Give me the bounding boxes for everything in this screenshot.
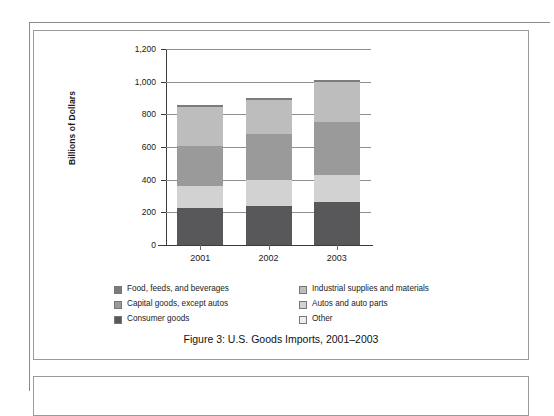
bar-segment	[246, 98, 292, 100]
figure-caption: Figure 3: U.S. Goods Imports, 2001–2003	[34, 333, 528, 345]
legend-label: Consumer goods	[127, 315, 189, 323]
y-tick-mark	[161, 147, 166, 148]
y-tick-mark	[161, 180, 166, 181]
x-tick-label: 2001	[175, 253, 225, 263]
y-tick-label: 800	[116, 109, 156, 119]
y-tick-mark	[161, 82, 166, 83]
y-tick-label: 200	[116, 207, 156, 217]
legend-column-right: Industrial supplies and materialsAutos a…	[299, 283, 429, 328]
legend-label: Capital goods, except autos	[127, 300, 228, 308]
plot-region: 1,2001,0008006004002000 200120022003	[166, 49, 371, 245]
bar-2001	[177, 49, 223, 245]
bar-2003	[314, 49, 360, 245]
bar-segment	[177, 107, 223, 146]
legend-swatch-icon	[114, 316, 122, 324]
y-tick-mark	[161, 114, 166, 115]
legend-item: Industrial supplies and materials	[299, 283, 429, 296]
bar-segment	[314, 122, 360, 175]
y-axis-title: Billions of Dollars	[67, 68, 77, 188]
legend-label: Other	[312, 315, 332, 323]
x-tick-label: 2003	[312, 253, 362, 263]
bar-segment	[314, 80, 360, 82]
legend-swatch-icon	[114, 286, 122, 294]
bar-segment	[177, 186, 223, 208]
legend-item: Consumer goods	[114, 313, 229, 326]
legend-swatch-icon	[299, 316, 307, 324]
y-tick-mark	[161, 49, 166, 50]
x-tick-label: 2002	[244, 253, 294, 263]
bar-segment	[314, 175, 360, 202]
chart-area: Billions of Dollars 1,2001,0008006004002…	[34, 31, 528, 277]
legend-item: Capital goods, except autos	[114, 298, 229, 311]
bar-segment	[177, 208, 223, 245]
legend-item: Autos and auto parts	[299, 298, 429, 311]
legend-swatch-icon	[299, 286, 307, 294]
legend-swatch-icon	[114, 301, 122, 309]
bar-segment	[246, 206, 292, 245]
bar-segment	[246, 134, 292, 181]
legend-column-left: Food, feeds, and beveragesCapital goods,…	[114, 283, 229, 328]
y-tick-mark	[161, 212, 166, 213]
figure-container: Billions of Dollars 1,2001,0008006004002…	[33, 30, 529, 360]
legend-swatch-icon	[299, 301, 307, 309]
y-tick-label: 400	[116, 175, 156, 185]
y-tick-label: 600	[116, 142, 156, 152]
y-tick-mark	[161, 245, 166, 246]
legend-label: Autos and auto parts	[312, 300, 388, 308]
next-section-frame	[33, 376, 529, 416]
bar-segment	[314, 82, 360, 122]
x-tick-mark	[269, 245, 270, 250]
legend-label: Food, feeds, and beverages	[127, 285, 229, 293]
bar-segment	[246, 180, 292, 205]
y-tick-label: 0	[116, 240, 156, 250]
bar-segment	[177, 146, 223, 186]
x-tick-mark	[200, 245, 201, 250]
bar-2002	[246, 49, 292, 245]
legend-label: Industrial supplies and materials	[312, 285, 429, 293]
bar-segment	[177, 105, 223, 107]
y-tick-label: 1,200	[116, 44, 156, 54]
y-tick-label: 1,000	[116, 77, 156, 87]
legend-item: Other	[299, 313, 429, 326]
x-tick-mark	[337, 245, 338, 250]
x-axis-line	[158, 245, 373, 246]
legend-item: Food, feeds, and beverages	[114, 283, 229, 296]
bar-segment	[314, 202, 360, 245]
bar-segment	[246, 100, 292, 133]
